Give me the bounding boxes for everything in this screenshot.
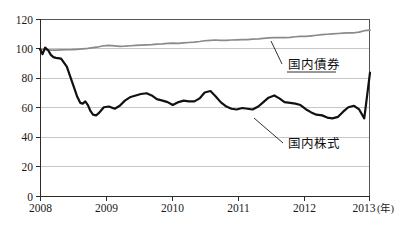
x-tick-label-2012: 2012 — [293, 202, 316, 214]
y-tick-label-120: 120 — [16, 14, 34, 26]
x-tick-label-2008: 2008 — [29, 202, 52, 214]
y-tick-label-20: 20 — [22, 161, 34, 173]
chart-background — [0, 0, 405, 228]
x-tick-label-2011: 2011 — [227, 202, 250, 214]
annotation-label-bonds: 国内債券 — [288, 57, 340, 72]
chart-container: 0 20 40 60 80 100 120 2008 2009 2010 201… — [0, 0, 405, 228]
line-chart: 0 20 40 60 80 100 120 2008 2009 2010 201… — [0, 0, 405, 228]
y-tick-label-0: 0 — [27, 191, 33, 203]
y-tick-label-40: 40 — [22, 131, 34, 143]
y-tick-label-80: 80 — [22, 72, 34, 84]
x-tick-label-2010: 2010 — [161, 202, 184, 214]
y-tick-label-100: 100 — [16, 43, 34, 55]
x-tick-label-2013: 2013 — [353, 202, 376, 214]
annotation-label-stocks: 国内株式 — [288, 136, 340, 151]
x-tick-label-2009: 2009 — [95, 202, 118, 214]
x-axis-unit-label: (年) — [377, 202, 394, 215]
y-tick-label-60: 60 — [22, 102, 34, 114]
